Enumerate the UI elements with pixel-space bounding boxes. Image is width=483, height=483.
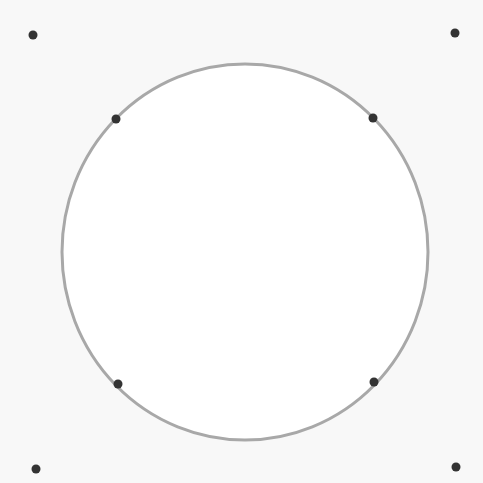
point-outer-top-left — [29, 31, 38, 40]
point-outer-top-right — [451, 29, 460, 38]
point-outer-bottom-left — [32, 465, 41, 474]
point-on-circle-bottom-right — [370, 378, 379, 387]
point-on-circle-top-right — [369, 114, 378, 123]
diagram-canvas — [0, 0, 483, 483]
point-outer-bottom-right — [452, 463, 461, 472]
point-on-circle-bottom-left — [114, 380, 123, 389]
point-on-circle-top-left — [112, 115, 121, 124]
